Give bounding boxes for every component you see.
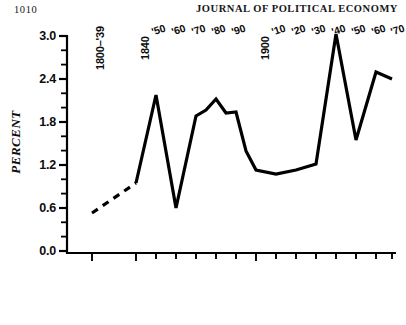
x-axis-ticks [92,253,392,261]
chart-plot-area [0,18,402,325]
journal-title: JOURNAL OF POLITICAL ECONOMY [196,3,398,14]
figure-line-chart: PERCENT 3.0 2.4 1.8 1.2 0.6 0.0 1800–'39… [0,18,402,325]
page-folio-number: 1010 [14,4,37,15]
series-segment-solid [136,34,392,208]
series-segment-dashed [92,183,136,213]
y-axis-major-ticks [59,36,67,251]
running-head: 1010 JOURNAL OF POLITICAL ECONOMY [0,0,402,20]
